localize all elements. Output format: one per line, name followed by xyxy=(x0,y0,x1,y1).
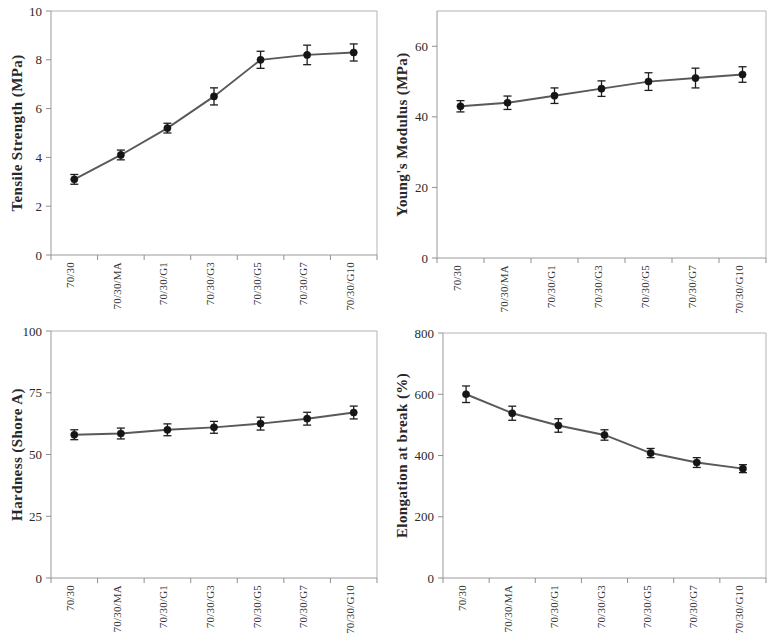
x-tick-label: 70/30/MA xyxy=(111,262,123,309)
data-point-marker xyxy=(210,93,217,100)
data-point-marker xyxy=(350,49,357,56)
x-tick-label: 70/30/G7 xyxy=(297,262,309,305)
plot-frame xyxy=(437,11,766,258)
x-tick-label: 70/30/G7 xyxy=(686,265,698,308)
x-tick-label: 70/30/G10 xyxy=(344,585,356,634)
x-tick-label: 70/30/G10 xyxy=(733,265,745,314)
y-tick-label: 4 xyxy=(36,150,43,165)
y-tick-label: 8 xyxy=(36,52,43,67)
x-tick-label: 70/30/G7 xyxy=(297,585,309,628)
x-tick-label: 70/30/G1 xyxy=(545,265,557,308)
plot-frame xyxy=(51,331,377,578)
panel-elongation-at-break: 0200400600800Elongation at break (%)70/3… xyxy=(390,320,771,641)
x-tick-label: 70/30 xyxy=(456,585,468,611)
x-tick-label: 70/30/G1 xyxy=(157,262,169,305)
y-axis-title: Elongation at break (%) xyxy=(394,373,411,538)
data-point-marker xyxy=(164,426,171,433)
y-axis-title: Tensile Strength (MPa) xyxy=(9,54,26,211)
x-tick-label: 70/30/G3 xyxy=(592,265,604,308)
data-point-marker xyxy=(509,410,516,417)
x-tick-label: 70/30 xyxy=(64,585,76,611)
y-axis-title: Young's Modulus (MPa) xyxy=(394,52,411,216)
y-tick-label: 6 xyxy=(36,101,43,116)
y-tick-label: 600 xyxy=(415,387,435,402)
y-tick-label: 75 xyxy=(29,385,42,400)
plot-body-2: 0255075100Hardness (Shore A)70/3070/30/M… xyxy=(9,324,377,634)
data-point-marker xyxy=(692,74,699,81)
data-point-marker xyxy=(504,99,511,106)
data-point-marker xyxy=(645,78,652,85)
plot-elongation-at-break: 0200400600800Elongation at break (%)70/3… xyxy=(390,320,771,641)
y-tick-label: 0 xyxy=(36,571,43,586)
y-axis-title: Hardness (Shore A) xyxy=(9,388,26,521)
y-tick-label: 50 xyxy=(29,447,42,462)
data-point-marker xyxy=(601,431,608,438)
y-tick-label: 0 xyxy=(428,571,435,586)
data-point-marker xyxy=(462,391,469,398)
y-tick-label: 0 xyxy=(36,248,43,263)
data-point-marker xyxy=(257,56,264,63)
x-tick-label: 70/30 xyxy=(64,262,76,288)
data-point-marker xyxy=(71,431,78,438)
x-tick-label: 70/30/G7 xyxy=(687,585,699,628)
x-tick-label: 70/30/G1 xyxy=(157,585,169,628)
y-tick-label: 40 xyxy=(415,109,428,124)
x-tick-label: 70/30/G5 xyxy=(251,262,263,305)
plot-frame xyxy=(443,333,766,578)
data-point-marker xyxy=(210,424,217,431)
data-point-marker xyxy=(164,125,171,132)
x-tick-label: 70/30/G5 xyxy=(639,265,651,308)
y-tick-label: 60 xyxy=(415,39,428,54)
y-tick-label: 200 xyxy=(415,509,435,524)
data-point-marker xyxy=(647,449,654,456)
data-point-marker xyxy=(739,465,746,472)
data-point-marker xyxy=(304,51,311,58)
x-tick-label: 70/30 xyxy=(451,265,463,291)
x-tick-label: 70/30/MA xyxy=(111,585,123,632)
data-point-marker xyxy=(598,85,605,92)
y-tick-label: 100 xyxy=(23,324,43,339)
x-tick-label: 70/30/G10 xyxy=(733,585,745,634)
panel-hardness: 0255075100Hardness (Shore A)70/3070/30/M… xyxy=(0,320,390,641)
data-point-marker xyxy=(117,151,124,158)
x-tick-label: 70/30/G5 xyxy=(251,585,263,628)
x-tick-label: 70/30/G5 xyxy=(641,585,653,628)
data-point-marker xyxy=(551,92,558,99)
x-tick-label: 70/30/G10 xyxy=(344,262,356,311)
x-tick-label: 70/30/MA xyxy=(502,585,514,632)
plot-hardness: 0255075100Hardness (Shore A)70/3070/30/M… xyxy=(0,320,390,641)
y-tick-label: 2 xyxy=(36,199,43,214)
data-point-marker xyxy=(739,71,746,78)
data-point-marker xyxy=(71,176,78,183)
panel-youngs-modulus: 0204060Young's Modulus (MPa)70/3070/30/M… xyxy=(390,0,771,320)
data-point-marker xyxy=(555,422,562,429)
x-tick-label: 70/30/G3 xyxy=(204,585,216,628)
data-point-marker xyxy=(257,420,264,427)
y-tick-label: 25 xyxy=(29,509,42,524)
data-point-marker xyxy=(457,103,464,110)
series-line xyxy=(74,52,353,179)
panel-tensile-strength: 0246810Tensile Strength (MPa)70/3070/30/… xyxy=(0,0,390,320)
x-tick-label: 70/30/G3 xyxy=(595,585,607,628)
plot-youngs-modulus: 0204060Young's Modulus (MPa)70/3070/30/M… xyxy=(390,0,771,320)
y-tick-label: 10 xyxy=(29,4,42,19)
plot-body-3: 0200400600800Elongation at break (%)70/3… xyxy=(394,326,766,634)
plot-frame xyxy=(51,11,377,255)
data-point-marker xyxy=(350,409,357,416)
x-tick-label: 70/30/G3 xyxy=(204,262,216,305)
data-point-marker xyxy=(304,415,311,422)
y-tick-label: 20 xyxy=(415,180,428,195)
plot-body-1: 0204060Young's Modulus (MPa)70/3070/30/M… xyxy=(394,11,766,314)
x-tick-label: 70/30/MA xyxy=(498,265,510,312)
y-tick-label: 800 xyxy=(415,326,435,341)
x-tick-label: 70/30/G1 xyxy=(548,585,560,628)
plot-tensile-strength: 0246810Tensile Strength (MPa)70/3070/30/… xyxy=(0,0,390,320)
y-tick-label: 0 xyxy=(422,251,429,266)
four-panel-figure: 0246810Tensile Strength (MPa)70/3070/30/… xyxy=(0,0,771,641)
data-point-marker xyxy=(117,430,124,437)
data-point-marker xyxy=(693,459,700,466)
plot-body-0: 0246810Tensile Strength (MPa)70/3070/30/… xyxy=(9,4,377,311)
y-tick-label: 400 xyxy=(415,448,435,463)
